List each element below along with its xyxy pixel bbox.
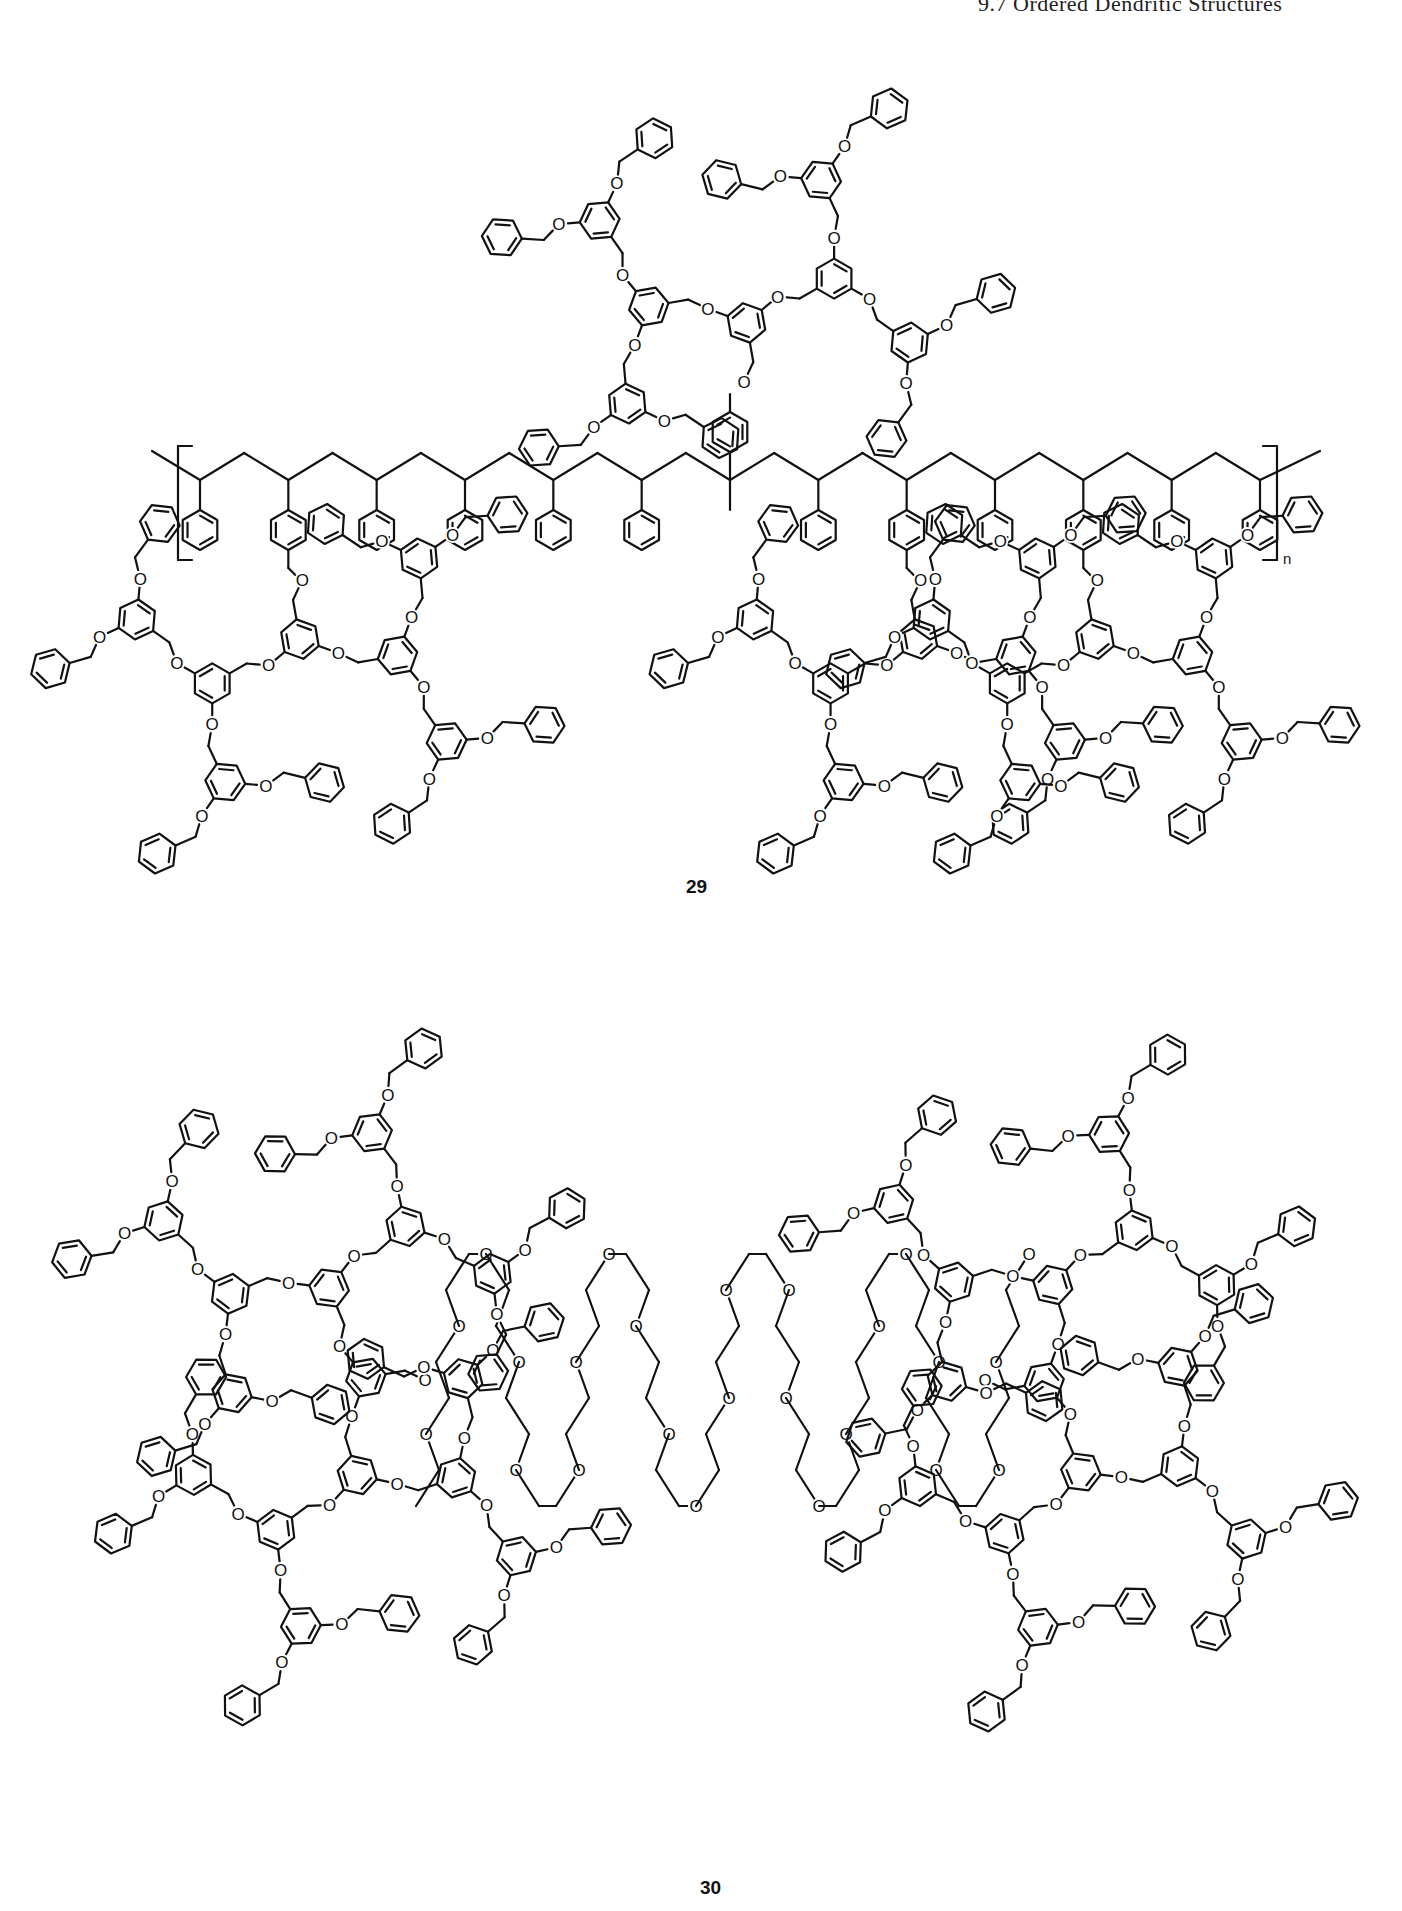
branching-aryl-ring bbox=[387, 1207, 425, 1246]
oxygen-atom-label: O bbox=[1052, 1335, 1065, 1354]
oxygen-atom-label: O bbox=[940, 316, 953, 335]
terminal-phenyl-ring bbox=[140, 505, 180, 542]
oxygen-atom-label: O bbox=[552, 215, 565, 234]
chemical-structure-figure: OOOOOOOOOOOOOOOOOOOOOOOOOOOOOOOOOOOOOOOO… bbox=[0, 0, 1402, 1911]
oxygen-atom-label: O bbox=[166, 1172, 179, 1191]
oxygen-atom-label: O bbox=[1170, 532, 1183, 551]
terminal-phenyl-ring bbox=[703, 418, 739, 458]
terminal-phenyl-ring bbox=[31, 649, 69, 688]
oxygen-atom-label: O bbox=[1165, 1237, 1178, 1256]
branching-aryl-ring bbox=[338, 1456, 377, 1494]
oxygen-atom-label: O bbox=[1245, 1255, 1258, 1274]
oxygen-atom-label: O bbox=[423, 770, 436, 789]
terminal-phenyl-ring bbox=[758, 505, 798, 542]
oxygen-atom-label: O bbox=[1006, 1267, 1019, 1286]
oxygen-atom-label: O bbox=[198, 1415, 211, 1434]
oxygen-atom-label: O bbox=[1198, 1327, 1211, 1346]
branching-aryl-ring bbox=[352, 1114, 392, 1151]
terminal-phenyl-ring bbox=[225, 1685, 260, 1725]
oxygen-atom-label: O bbox=[950, 644, 963, 663]
terminal-phenyl-ring bbox=[454, 1625, 492, 1664]
branching-aryl-ring bbox=[986, 1514, 1024, 1553]
oxygen-atom-label: O bbox=[1074, 1246, 1087, 1265]
oxygen-atom-label: O bbox=[347, 1247, 360, 1266]
oxygen-atom-label: O bbox=[813, 807, 826, 826]
oxygen-atom-label: O bbox=[888, 628, 901, 647]
terminal-phenyl-ring bbox=[968, 1692, 1004, 1732]
oxygen-atom-label: O bbox=[774, 167, 787, 186]
terminal-phenyl-ring bbox=[1278, 1207, 1315, 1247]
oxygen-atom-label: O bbox=[824, 715, 837, 734]
pendant-phenyl-ring bbox=[536, 510, 571, 550]
branching-aryl-ring bbox=[281, 1608, 321, 1644]
terminal-phenyl-ring bbox=[380, 1595, 420, 1632]
terminal-phenyl-ring bbox=[525, 707, 565, 743]
dendronized-styrene-ring bbox=[889, 510, 924, 550]
branching-aryl-ring bbox=[144, 1201, 182, 1240]
terminal-phenyl-ring bbox=[918, 1096, 956, 1135]
oxygen-atom-label: O bbox=[616, 266, 629, 285]
oxygen-atom-label: O bbox=[965, 654, 978, 673]
oxygen-atom-label: O bbox=[325, 1129, 338, 1148]
terminal-phenyl-ring bbox=[1184, 1366, 1224, 1401]
oxygen-atom-label: O bbox=[417, 1358, 430, 1377]
oxygen-atom-label: O bbox=[345, 1407, 358, 1426]
oxygen-atom-label: O bbox=[1072, 1613, 1085, 1632]
terminal-phenyl-ring bbox=[255, 1136, 295, 1171]
terminal-phenyl-ring bbox=[1026, 1381, 1062, 1421]
oxygen-atom-label: O bbox=[195, 807, 208, 826]
branching-aryl-ring bbox=[728, 303, 766, 342]
oxygen-atom-label: O bbox=[274, 1561, 287, 1580]
peg-chain: OOOOOOOOOOOOOOOOOOOOOOOO bbox=[416, 1245, 1037, 1516]
oxygen-atom-label: O bbox=[259, 777, 272, 796]
branching-aryl-ring bbox=[1019, 539, 1055, 579]
branching-aryl-ring bbox=[195, 663, 230, 703]
terminal-phenyl-ring bbox=[139, 834, 176, 874]
oxygen-atom-label: O bbox=[1241, 526, 1254, 545]
oxygen-atom-label: O bbox=[381, 1086, 394, 1105]
terminal-phenyl-ring bbox=[923, 763, 962, 801]
oxygen-atom-label: O bbox=[878, 777, 891, 796]
branching-aryl-ring bbox=[801, 162, 841, 198]
branching-aryl-ring bbox=[892, 323, 928, 363]
terminal-phenyl-ring bbox=[935, 505, 975, 542]
oxygen-atom-label: O bbox=[1064, 526, 1077, 545]
branching-aryl-ring bbox=[1228, 1520, 1266, 1559]
oxygen-atom-label: O bbox=[1212, 678, 1225, 697]
oxygen-atom-label: O bbox=[332, 644, 345, 663]
terminal-phenyl-ring bbox=[52, 1240, 91, 1278]
oxygen-atom-label: O bbox=[899, 1156, 912, 1175]
oxygen-atom-label: O bbox=[979, 1384, 992, 1403]
terminal-phenyl-ring bbox=[1103, 504, 1139, 544]
oxygen-atom-label: O bbox=[1022, 1245, 1035, 1264]
oxygen-atom-label: O bbox=[1001, 715, 1014, 734]
terminal-phenyl-ring bbox=[650, 649, 688, 688]
oxygen-atom-label: O bbox=[610, 174, 623, 193]
branching-aryl-ring bbox=[1076, 619, 1114, 658]
branching-aryl-ring bbox=[817, 259, 852, 299]
terminal-phenyl-ring bbox=[826, 1532, 861, 1572]
oxygen-atom-label: O bbox=[550, 1538, 563, 1557]
branching-aryl-ring bbox=[1161, 1446, 1198, 1486]
terminal-phenyl-ring bbox=[867, 420, 907, 457]
oxygen-atom-label: O bbox=[658, 412, 671, 431]
oxygen-atom-label: O bbox=[490, 1305, 503, 1324]
oxygen-atom-label: O bbox=[191, 1260, 204, 1279]
branching-aryl-ring bbox=[176, 1455, 211, 1495]
oxygen-atom-label: O bbox=[458, 1429, 471, 1448]
oxygen-atom-label: O bbox=[917, 1246, 930, 1265]
branching-aryl-ring bbox=[1045, 723, 1085, 759]
oxygen-atom-label: O bbox=[929, 570, 942, 589]
branching-aryl-ring bbox=[309, 1270, 349, 1307]
oxygen-atom-label: O bbox=[789, 654, 802, 673]
left-dendron: OOOOOOOOOOOOOOOOOOOOOOOOOOOOOOO bbox=[52, 1029, 631, 1726]
terminal-phenyl-ring bbox=[871, 89, 908, 129]
oxygen-atom-label: O bbox=[275, 1653, 288, 1672]
oxygen-atom-label: O bbox=[498, 1586, 511, 1605]
branching-aryl-ring bbox=[427, 723, 467, 759]
oxygen-atom-label: O bbox=[170, 654, 183, 673]
oxygen-atom-label: O bbox=[1115, 1468, 1128, 1487]
terminal-phenyl-ring bbox=[488, 497, 528, 533]
terminal-phenyl-ring bbox=[1061, 1336, 1099, 1375]
terminal-phenyl-ring bbox=[1235, 1284, 1273, 1323]
